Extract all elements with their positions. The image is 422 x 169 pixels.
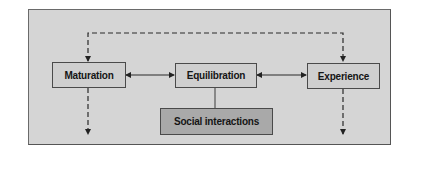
node-maturation-label: Maturation [64,70,113,81]
node-social-interactions: Social interactions [160,108,273,135]
node-maturation: Maturation [52,62,126,88]
node-social-interactions-label: Social interactions [174,116,259,127]
node-experience: Experience [307,63,380,89]
node-equilibration: Equilibration [175,63,257,88]
node-experience-label: Experience [318,71,369,82]
node-equilibration-label: Equilibration [187,70,246,81]
